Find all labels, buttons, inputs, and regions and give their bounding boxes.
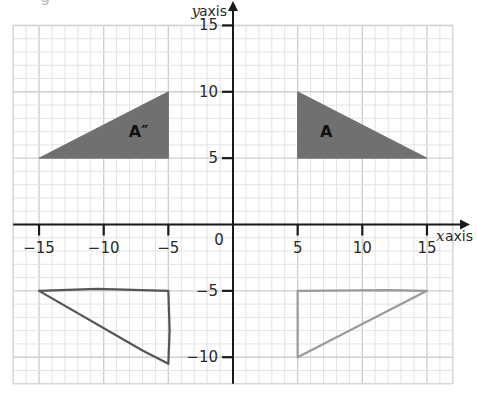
x-tick-label: 10 xyxy=(353,239,372,257)
x-axis-label-variable: x xyxy=(436,227,445,245)
origin-label: 0 xyxy=(214,231,224,249)
stray-text-fragment: g xyxy=(40,0,50,6)
x-tick-label: −15 xyxy=(23,239,55,257)
y-tick-label: 5 xyxy=(208,149,218,167)
y-tick-label: 15 xyxy=(199,16,218,34)
x-tick-label: 5 xyxy=(293,239,303,257)
coordinate-grid-diagram: g AA″ −15−10−55101515105−5−10 y axis x a… xyxy=(0,0,477,394)
y-tick-label: −10 xyxy=(186,348,218,366)
x-tick-label: −5 xyxy=(157,239,179,257)
x-tick-label: 15 xyxy=(417,239,436,257)
y-axis-arrow-icon xyxy=(228,1,238,11)
x-tick-label: −10 xyxy=(88,239,120,257)
x-axis-label-text: axis xyxy=(445,228,473,244)
triangle-label-A-double-prime: A″ xyxy=(129,122,149,141)
ticks-layer: −15−10−55101515105−5−10 xyxy=(23,16,436,366)
y-tick-label: 10 xyxy=(199,83,218,101)
y-tick-label: −5 xyxy=(196,282,218,300)
y-axis-label-text: axis xyxy=(199,3,227,19)
triangle-label-A: A xyxy=(320,122,333,141)
